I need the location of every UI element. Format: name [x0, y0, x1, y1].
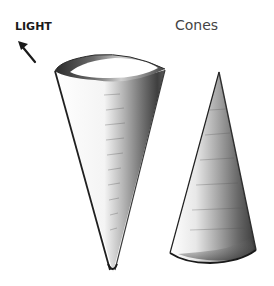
- upright-cone: [170, 72, 256, 263]
- cones-drawing: [0, 0, 274, 286]
- inverted-cone: [55, 55, 165, 272]
- arrow-up-left-icon: [18, 41, 35, 62]
